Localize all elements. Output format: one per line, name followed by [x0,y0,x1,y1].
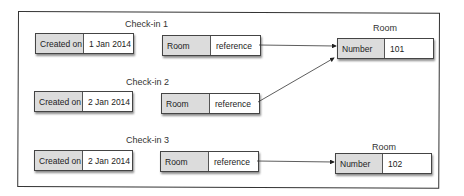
arrow-checkin3-room102 [257,161,334,162]
reference-arrows [0,0,464,196]
arrow-checkin1-room101 [259,45,336,46]
arrow-checkin2-room101 [258,58,334,102]
